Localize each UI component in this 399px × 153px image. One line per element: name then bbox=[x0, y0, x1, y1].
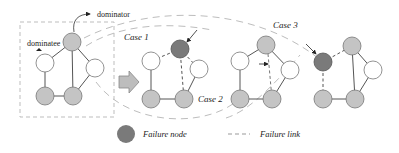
node-dominator bbox=[263, 90, 281, 108]
node-dominator bbox=[63, 33, 81, 51]
node-dominator bbox=[142, 90, 160, 108]
node-dominatee bbox=[281, 61, 299, 79]
node-dominatee bbox=[190, 60, 208, 78]
network-diagram: dominator dominatee Case 1 bbox=[0, 0, 399, 153]
graph-case2 bbox=[231, 36, 299, 108]
node-dominatee bbox=[231, 52, 249, 70]
transition-arrow-icon bbox=[119, 71, 139, 93]
failure-pointer-icon bbox=[187, 30, 197, 42]
node-dominator bbox=[175, 90, 193, 108]
node-dominator bbox=[64, 87, 82, 105]
dominatee-pointer-icon bbox=[36, 48, 42, 51]
legend-failure-link-label: Failure link bbox=[259, 129, 300, 139]
node-dominator bbox=[314, 90, 332, 108]
graph-case3 bbox=[306, 37, 382, 108]
case1-label: Case 1 bbox=[124, 32, 149, 42]
dominatee-label: dominatee bbox=[27, 39, 61, 48]
node-dominatee bbox=[86, 59, 104, 77]
dominator-label: dominator bbox=[97, 10, 130, 19]
case1-upper-arc bbox=[86, 26, 212, 46]
node-dominator bbox=[343, 37, 361, 55]
legend: Failure node Failure link bbox=[117, 125, 300, 143]
node-failure bbox=[314, 53, 332, 71]
node-dominator bbox=[346, 90, 364, 108]
node-dominatee bbox=[36, 54, 54, 72]
case2-label: Case 2 bbox=[198, 94, 223, 104]
failure-pointer-icon bbox=[306, 44, 316, 54]
node-dominator bbox=[257, 36, 275, 54]
node-dominatee bbox=[364, 61, 382, 79]
legend-failure-node-label: Failure node bbox=[142, 129, 187, 139]
dominator-pointer-icon bbox=[74, 14, 90, 32]
case3-label: Case 3 bbox=[273, 20, 298, 30]
legend-failure-node-icon bbox=[117, 125, 135, 143]
node-dominator bbox=[231, 90, 249, 108]
node-failure bbox=[171, 40, 189, 58]
node-dominator bbox=[36, 87, 54, 105]
node-dominatee bbox=[142, 52, 160, 70]
